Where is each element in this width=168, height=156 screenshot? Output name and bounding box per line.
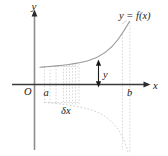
origin-label: O bbox=[24, 86, 32, 97]
ordinate-label: y bbox=[102, 69, 108, 80]
strip-width-label: δx bbox=[61, 105, 71, 116]
figure-container: y x O a b y = f(x) y δx bbox=[0, 0, 168, 156]
curve-label: y = f(x) bbox=[118, 10, 151, 22]
x-axis-arrowhead bbox=[144, 82, 151, 88]
math-diagram-svg: y x O a b y = f(x) y δx bbox=[0, 0, 168, 156]
x-axis-label: x bbox=[152, 80, 158, 91]
y-axis-label: y bbox=[31, 0, 37, 12]
ordinate-arrowhead-up bbox=[96, 60, 101, 66]
ordinate-arrow-group bbox=[96, 60, 101, 88]
upper-limit-label: b bbox=[127, 87, 132, 98]
construction-dashed-lines bbox=[45, 22, 131, 153]
curve-label-leader bbox=[122, 21, 127, 25]
function-curve bbox=[40, 22, 130, 68]
lower-limit-label: a bbox=[44, 87, 49, 98]
mirrored-dashed-curve bbox=[45, 103, 129, 155]
